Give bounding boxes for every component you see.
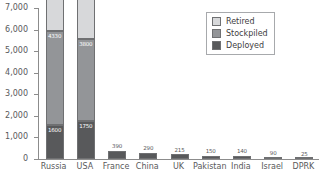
bar-series-container: 1600433021706500175038002385618539029021… [39,8,319,159]
x-axis-label-dprk: DPRK [284,162,323,172]
y-axis-tick-label: 1,000 [0,133,28,141]
bar-segment-stockpiled[interactable]: 3800 [77,39,95,121]
chart-legend: RetiredStockpiledDeployed [206,12,275,55]
legend-item-stockpiled[interactable]: Stockpiled [212,29,268,38]
x-axis-tick-labels: RussiaUSAFranceChinaUKPakistanIndiaIsrae… [38,162,319,180]
y-axis-tick-label: 4,000 [0,69,28,77]
bar-total-label: 90 [256,150,290,156]
bar-segment-value-label: 1750 [78,123,94,129]
bar-total-label: 215 [163,147,197,153]
bar-group[interactable]: 90 [264,157,282,159]
bar-total-label: 25 [287,151,321,157]
bar-segment-deployed[interactable]: 1750 [77,121,95,159]
bar-group[interactable]: 25 [295,157,313,159]
bar-total-label: 150 [194,148,228,154]
bar-total-label: 390 [100,143,134,149]
bar-segment-deployed[interactable] [295,157,313,159]
bar-segment-value-label: 4330 [47,33,63,39]
legend-item-label: Deployed [226,41,264,50]
bar-segment-value-label: 1600 [47,127,63,133]
x-axis-line [38,159,319,160]
nuclear-warheads-bar-chart: 01,0002,0003,0004,0005,0006,0007,000 160… [0,0,325,187]
y-axis-tick-label: 7,000 [0,4,28,12]
bar-segment-deployed[interactable] [139,153,157,159]
bar-group[interactable]: 215 [171,154,189,159]
y-axis-tick-label: 0 [0,155,28,163]
legend-swatch-stockpiled-icon [212,29,221,38]
bar-group[interactable]: 290 [139,153,157,159]
bar-group[interactable]: 390 [108,151,126,159]
legend-item-deployed[interactable]: Deployed [212,41,268,50]
bar-segment-deployed[interactable] [264,157,282,159]
legend-item-label: Retired [226,17,255,26]
bar-group[interactable]: 150 [202,156,220,159]
bar-group[interactable]: 1600433021706500 [46,0,64,159]
bar-group[interactable]: 140 [233,156,251,159]
y-axis-tick-label: 6,000 [0,26,28,34]
bar-segment-deployed[interactable] [202,156,220,159]
bar-segment-deployed[interactable] [233,156,251,159]
legend-item-label: Stockpiled [226,29,268,38]
bar-segment-deployed[interactable] [171,154,189,159]
y-axis-tick [34,159,39,160]
bar-segment-deployed[interactable] [108,151,126,159]
bar-segment-deployed[interactable]: 1600 [46,125,64,160]
plot-area: 1600433021706500175038002385618539029021… [38,8,319,160]
bar-segment-value-label: 3800 [78,41,94,47]
legend-swatch-retired-icon [212,17,221,26]
bar-total-label: 290 [131,145,165,151]
legend-swatch-deployed-icon [212,41,221,50]
bar-group[interactable]: 1750380023856185 [77,0,95,159]
legend-item-retired[interactable]: Retired [212,17,268,26]
y-axis-tick-labels: 01,0002,0003,0004,0005,0006,0007,000 [0,8,34,160]
bar-segment-retired[interactable]: 2170 [46,0,64,31]
bar-segment-stockpiled[interactable]: 4330 [46,31,64,124]
bar-segment-retired[interactable]: 2385 [77,0,95,39]
bar-total-label: 140 [225,148,259,154]
y-axis-tick-label: 2,000 [0,112,28,120]
y-axis-tick-label: 5,000 [0,47,28,55]
y-axis-tick-label: 3,000 [0,90,28,98]
